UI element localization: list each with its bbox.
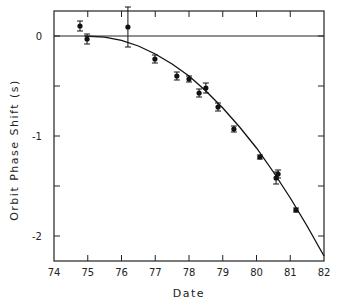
data-point <box>231 126 236 131</box>
plot-frame <box>54 11 324 261</box>
y-tick-label: -1 <box>32 131 42 142</box>
data-point <box>197 90 202 95</box>
data-point <box>77 23 82 28</box>
x-tick-label: 77 <box>149 267 162 278</box>
y-tick-label: 0 <box>36 31 42 42</box>
x-axis-title: Date <box>173 287 205 300</box>
x-tick-label: 78 <box>183 267 196 278</box>
x-tick-label: 79 <box>216 267 229 278</box>
y-axis-title: Orbit Phase Shift (s) <box>8 79 21 221</box>
data-point <box>84 36 89 41</box>
y-tick-label: -2 <box>32 231 42 242</box>
x-tick-label: 75 <box>81 267 94 278</box>
axis-ticks <box>54 11 324 261</box>
x-tick-label: 74 <box>48 267 61 278</box>
data-point <box>174 73 179 78</box>
fit-curve <box>84 36 324 256</box>
plot-border <box>54 11 324 261</box>
x-tick-label: 80 <box>250 267 263 278</box>
x-tick-label: 76 <box>115 267 128 278</box>
x-tick-label: 82 <box>318 267 331 278</box>
x-tick-label: 81 <box>284 267 297 278</box>
data-point <box>125 24 130 29</box>
chart: 7475767778798081820-1-2 Date Orbit Phase… <box>0 0 343 308</box>
data-point <box>152 56 157 61</box>
axis-tick-labels: 7475767778798081820-1-2 <box>32 31 330 278</box>
data-series <box>54 7 324 256</box>
